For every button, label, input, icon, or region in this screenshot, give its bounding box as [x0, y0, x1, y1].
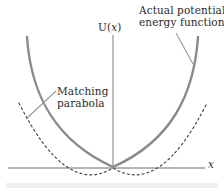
annotation-actual-line2: energy function	[139, 17, 224, 29]
bottom-divider-band	[6, 183, 218, 188]
annotation-matching-line2: parabola	[57, 98, 109, 110]
y-axis-label-u: U(	[98, 21, 111, 33]
annotation-actual-potential: Actual potential energy function	[139, 5, 224, 29]
y-axis-label: U(x)	[98, 22, 121, 34]
leader-line-actual	[176, 33, 193, 64]
potential-energy-figure: Actual potential energy function Matchin…	[0, 0, 224, 192]
annotation-matching-parabola: Matching parabola	[57, 86, 109, 110]
annotation-actual-line1: Actual potential	[139, 4, 224, 16]
annotation-matching-line1: Matching	[57, 85, 109, 97]
y-axis-label-paren: )	[117, 21, 121, 33]
x-axis-label: x	[208, 159, 214, 171]
